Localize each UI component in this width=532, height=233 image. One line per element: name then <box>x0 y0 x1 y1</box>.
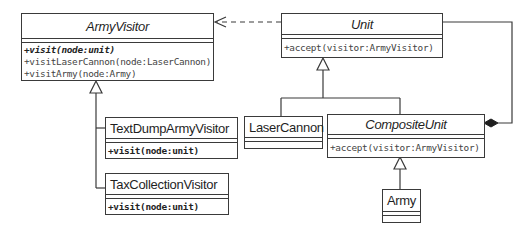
dependency-arrow <box>215 17 281 27</box>
class-text-dump-army-visitor: TextDumpArmyVisitor +visit(node:unit) <box>105 117 238 159</box>
operations-compartment: +accept(visitor:ArmyVisitor) <box>282 39 442 55</box>
operation: +visit(node:unit) <box>108 201 226 213</box>
generalization-arrow-unit <box>281 58 400 116</box>
operations-compartment: +visit(node:unit) +visitLaserCannon(node… <box>22 43 213 81</box>
operations-compartment <box>245 142 322 146</box>
uml-class-diagram: ArmyVisitor +visit(node:unit) +visitLase… <box>0 0 532 233</box>
class-army: Army <box>382 189 421 223</box>
operation: +visitArmy(node:Army) <box>24 68 211 80</box>
class-name: CompositeUnit <box>328 115 484 135</box>
operations-compartment <box>383 216 420 220</box>
operation: +visit(node:unit) <box>108 145 235 157</box>
class-composite-unit: CompositeUnit +accept(visitor:ArmyVisito… <box>327 114 485 158</box>
class-name: Army <box>383 190 420 212</box>
generalization-arrow-compositeunit <box>394 157 406 189</box>
class-name: TextDumpArmyVisitor <box>106 118 237 139</box>
operation: +visitLaserCannon(node:LaserCannon) <box>24 56 211 68</box>
class-name: LaserCannon <box>245 117 322 138</box>
operations-compartment: +accept(visitor:ArmyVisitor) <box>328 139 484 155</box>
operations-compartment: +visit(node:unit) <box>106 143 237 158</box>
operation: +visit(node:unit) <box>24 44 211 56</box>
class-name: Unit <box>282 14 442 35</box>
class-name: TaxCollectionVisitor <box>106 174 228 195</box>
operation: +accept(visitor:ArmyVisitor) <box>330 142 482 154</box>
class-laser-cannon: LaserCannon <box>244 116 323 149</box>
class-name: ArmyVisitor <box>22 14 213 39</box>
class-tax-collection-visitor: TaxCollectionVisitor +visit(node:unit) <box>105 173 229 215</box>
class-army-visitor: ArmyVisitor +visit(node:unit) +visitLase… <box>21 13 214 81</box>
operation: +accept(visitor:ArmyVisitor) <box>284 42 440 54</box>
operations-compartment: +visit(node:unit) <box>106 199 228 214</box>
generalization-arrow-armyvisitor <box>90 81 105 188</box>
composition-arrow <box>442 22 512 127</box>
class-unit: Unit +accept(visitor:ArmyVisitor) <box>281 13 443 58</box>
